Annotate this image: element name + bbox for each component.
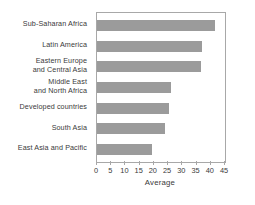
x-tick [124,161,125,165]
bar-slot [97,36,225,57]
x-tick [196,161,197,165]
category-label: Latin America [0,35,91,56]
bar [97,103,169,114]
bar-slot [97,139,225,160]
bar [97,82,171,93]
x-tick-label: 15 [135,166,143,175]
x-tick [139,161,140,165]
category-axis: Sub-Saharan Africa Latin America Eastern… [0,14,91,159]
x-axis-label: Average [96,178,224,187]
category-label: East Asia and Pacific [0,138,91,159]
x-tick-label: 10 [120,166,128,175]
x-tick-label: 0 [94,166,98,175]
plot-area [96,12,226,163]
bar-slot [97,77,225,98]
x-tick-label: 45 [220,166,228,175]
x-axis: 051015202530354045 Average [96,161,226,205]
x-tick [167,161,168,165]
x-tick [181,161,182,165]
x-tick-label: 35 [191,166,199,175]
x-tick [96,161,97,165]
bars-layer [97,15,225,160]
x-tick-label: 5 [108,166,112,175]
x-tick-label: 25 [163,166,171,175]
category-label: Middle East and North Africa [0,76,91,97]
bar [97,123,165,134]
x-tick [110,161,111,165]
bar [97,144,152,155]
x-tick [210,161,211,165]
x-tick-label: 30 [177,166,185,175]
category-label: Developed countries [0,97,91,118]
bar-slot [97,56,225,77]
x-tick-label: 40 [206,166,214,175]
x-tick-label: 20 [149,166,157,175]
bar [97,61,201,72]
bar [97,20,215,31]
bar-slot [97,119,225,140]
bar-slot [97,15,225,36]
bar [97,41,202,52]
bar-slot [97,98,225,119]
category-label: South Asia [0,118,91,139]
bar-chart: Sub-Saharan Africa Latin America Eastern… [0,0,255,205]
category-label: Eastern Europe and Central Asia [0,55,91,76]
x-tick [224,161,225,165]
category-label: Sub-Saharan Africa [0,14,91,35]
x-tick [153,161,154,165]
